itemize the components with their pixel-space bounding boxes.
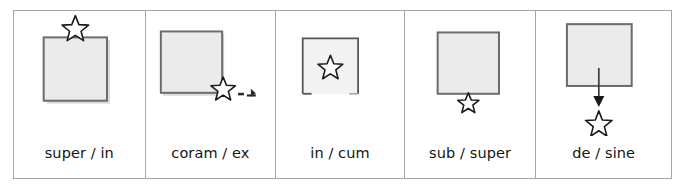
- schema-cell-coram-ex: coram / ex: [146, 11, 277, 178]
- schema-cell-de-sine: de / sine: [536, 11, 671, 178]
- figure-root: super / in coram / ex: [0, 0, 686, 189]
- schema-cell-label: coram / ex: [146, 146, 276, 162]
- schema-cell-super-in: super / in: [14, 11, 146, 178]
- schema-diagram-in-cum: [276, 11, 404, 136]
- schema-cell-label: super / in: [14, 146, 145, 162]
- schema-diagram-de-sine: [536, 11, 671, 136]
- star-icon: [458, 93, 479, 113]
- arrow-head-icon: [594, 96, 605, 107]
- schema-cell-in-cum: in / cum: [276, 11, 405, 178]
- schema-diagram-coram-ex: [146, 11, 276, 136]
- square-shape: [160, 31, 221, 92]
- schema-diagram-sub-super: [405, 11, 536, 136]
- schema-cell-sub-super: sub / super: [405, 11, 537, 178]
- schema-cell-label: in / cum: [276, 146, 404, 162]
- square-shape: [437, 32, 498, 93]
- schema-diagram-super-in: [14, 11, 145, 136]
- square-shape: [44, 37, 107, 100]
- trail-marks-icon: [238, 89, 256, 97]
- star-icon: [586, 111, 613, 136]
- schema-cell-label: de / sine: [536, 146, 671, 162]
- schema-cell-label: sub / super: [405, 146, 536, 162]
- schema-table: super / in coram / ex: [13, 10, 672, 179]
